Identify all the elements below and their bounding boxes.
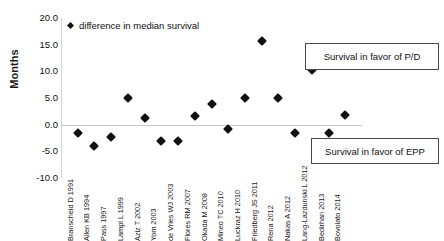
x-axis-category-label: Yom 2003 [150, 208, 158, 241]
data-point [273, 93, 283, 103]
y-axis-tick: -5.0 [14, 146, 58, 156]
chart-legend: difference in median survival [68, 20, 199, 31]
data-point [324, 128, 334, 138]
legend-diamond-icon [67, 22, 74, 29]
x-axis-category-label: Bovolato 2014 [334, 194, 342, 241]
data-point [257, 36, 267, 46]
data-point [173, 136, 183, 146]
y-axis-tick: 5.0 [14, 93, 58, 103]
y-axis-tick: 0.0 [14, 120, 58, 130]
y-axis-line [61, 18, 62, 178]
data-point [123, 93, 133, 103]
x-axis-category-label: Allen KB 1994 [83, 195, 91, 241]
y-axis-tick: 20.0 [14, 13, 58, 23]
data-point [89, 141, 99, 151]
annotation-epp-text: Survival in favor of EPP [325, 146, 425, 157]
data-point [140, 113, 150, 123]
x-axis-category-label: Okada M 2008 [201, 193, 209, 241]
x-axis-category-label: Pass 1997 [100, 207, 108, 241]
x-axis-category-label: Flores RM 2007 [184, 189, 192, 241]
x-axis-category-labels: Branscheid D 1991Allen KB 1994Pass 1997L… [61, 178, 362, 241]
x-axis-category-label: Aziz T 2002 [134, 203, 142, 241]
x-axis-category-label: Branscheid D 1991 [67, 179, 75, 241]
scatter-chart: Months 20.015.010.05.00.0-5.0-10.0 diffe… [0, 0, 444, 241]
y-axis-tick-labels: 20.015.010.05.00.0-5.0-10.0 [14, 18, 58, 178]
data-point [290, 128, 300, 138]
y-axis-tick: 15.0 [14, 40, 58, 50]
x-axis-category-label: Lampl L 1999 [117, 197, 125, 241]
x-axis-category-label: Bedirhan 2013 [318, 194, 326, 241]
data-point [73, 128, 83, 138]
zero-reference-line [61, 125, 362, 126]
annotation-box-epp: Survival in favor of EPP [311, 138, 439, 164]
x-axis-category-label: Nakas A 2012 [284, 196, 292, 241]
data-point [207, 99, 217, 109]
x-axis-category-label: Luckraz H 2010 [234, 190, 242, 241]
annotation-pd-text: Survival in favor of P/D [324, 51, 421, 62]
data-point [340, 110, 350, 120]
x-axis-category-label: Rena 2012 [267, 205, 275, 241]
data-point [240, 93, 250, 103]
annotation-box-pd: Survival in favor of P/D [305, 43, 439, 70]
x-axis-category-label: de Vries WJ 2003 [167, 184, 175, 241]
data-point [156, 136, 166, 146]
data-point [190, 111, 200, 121]
x-axis-category-label: Friedberg JS 2011 [251, 182, 259, 241]
y-axis-tick: 10.0 [14, 66, 58, 76]
data-point [106, 132, 116, 142]
x-axis-category-label: Mineo TC 2010 [217, 191, 225, 241]
x-axis-category-label: Lang-Lazdunski L 2012 [301, 165, 309, 241]
y-axis-tick: -10.0 [14, 173, 58, 183]
legend-label: difference in median survival [79, 20, 199, 31]
